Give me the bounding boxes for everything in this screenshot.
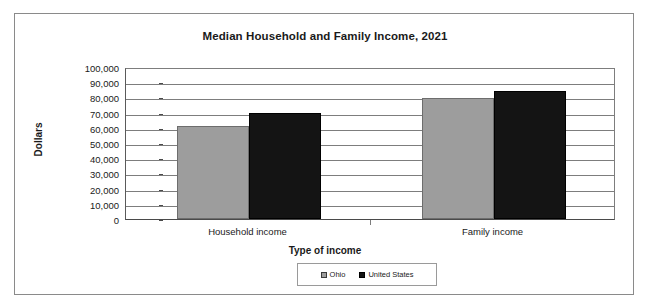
chart-legend: Ohio United States xyxy=(297,263,437,286)
bar-ohio-household-income[interactable] xyxy=(177,126,249,219)
gridline xyxy=(126,84,614,85)
y-axis-tick-label: 90,000 xyxy=(53,78,119,89)
legend-swatch-united-states-icon xyxy=(359,272,365,278)
y-axis-tick-label: 80,000 xyxy=(53,93,119,104)
y-axis-tick-label: 40,000 xyxy=(53,154,119,165)
legend-swatch-ohio-icon xyxy=(321,272,327,278)
legend-label-united-states: United States xyxy=(368,270,413,279)
y-axis-tick-label: 50,000 xyxy=(53,139,119,150)
y-axis-title: Dollars xyxy=(33,110,44,170)
chart-title: Median Household and Family Income, 2021 xyxy=(15,30,635,42)
chart-root: Median Household and Family Income, 2021… xyxy=(0,0,649,308)
y-axis-tick-label: 30,000 xyxy=(53,169,119,180)
y-axis-tick-label: 20,000 xyxy=(53,184,119,195)
bar-united-states-family-income[interactable] xyxy=(494,91,566,219)
bar-ohio-family-income[interactable] xyxy=(422,98,494,219)
x-axis-category-label: Family income xyxy=(370,226,615,237)
y-axis-tick-label: 60,000 xyxy=(53,123,119,134)
y-axis-tick-label: 100,000 xyxy=(53,63,119,74)
x-axis-category-separator xyxy=(370,220,371,225)
x-axis-category-label: Household income xyxy=(125,226,370,237)
x-axis-title: Type of income xyxy=(15,245,635,256)
bar-united-states-household-income[interactable] xyxy=(249,113,321,219)
y-axis-tick-label: 0 xyxy=(53,215,119,226)
chart-frame: Median Household and Family Income, 2021… xyxy=(14,13,634,295)
y-axis-tick-label: 70,000 xyxy=(53,108,119,119)
legend-item-united-states: United States xyxy=(359,270,413,279)
y-axis-tick-mark xyxy=(159,220,163,221)
legend-label-ohio: Ohio xyxy=(330,270,346,279)
plot-area xyxy=(125,68,615,220)
y-axis-tick-label: 10,000 xyxy=(53,199,119,210)
y-axis-tick-labels: 100,00090,00080,00070,00060,00050,00040,… xyxy=(53,68,119,220)
legend-item-ohio: Ohio xyxy=(321,270,346,279)
